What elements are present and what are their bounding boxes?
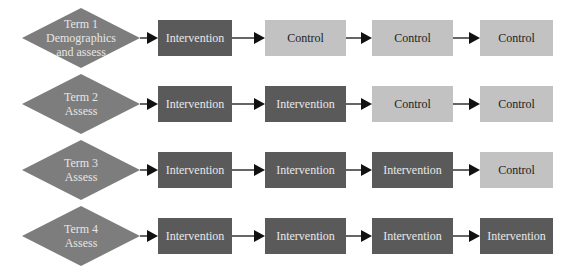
term-label-line2: Assess [65,236,98,250]
term-row-3: Term 3AssessInterventionInterventionInte… [0,140,571,200]
control-box: Control [480,86,553,122]
arrow-right-icon [453,31,480,45]
term-diamond: Term 3Assess [22,140,140,200]
term-diamond: Term 1Demographicsand assess [22,8,140,68]
term-label-line2: Demographics [46,31,116,45]
intervention-box: Intervention [158,218,232,254]
arrow-right-icon [346,229,372,243]
term-label-line2: Assess [65,104,98,118]
arrow-right-icon [140,163,158,177]
term-label-line1: Term 4 [64,222,98,236]
term-diamond: Term 2Assess [22,74,140,134]
term-label-line1: Term 2 [64,90,98,104]
term-row-1: Term 1Demographicsand assessIntervention… [0,8,571,68]
arrow-right-icon [232,97,265,111]
term-diamond: Term 4Assess [22,206,140,266]
arrow-right-icon [453,229,480,243]
term-row-2: Term 2AssessInterventionInterventionCont… [0,74,571,134]
intervention-box: Intervention [480,218,553,254]
term-label-line1: Term 3 [64,156,98,170]
intervention-box: Intervention [158,152,232,188]
term-label: Term 1Demographicsand assess [22,8,140,68]
term-label-line2: Assess [65,170,98,184]
arrow-right-icon [232,229,265,243]
term-row-4: Term 4AssessInterventionInterventionInte… [0,206,571,266]
intervention-box: Intervention [158,86,232,122]
arrow-right-icon [346,97,372,111]
intervention-box: Intervention [265,152,346,188]
term-label: Term 2Assess [22,74,140,134]
intervention-box: Intervention [158,20,232,56]
term-label-line3: and assess [56,45,106,59]
arrow-right-icon [453,97,480,111]
intervention-box: Intervention [372,218,453,254]
intervention-box: Intervention [372,152,453,188]
intervention-box: Intervention [265,218,346,254]
arrow-right-icon [232,163,265,177]
intervention-box: Intervention [265,86,346,122]
control-box: Control [372,86,453,122]
arrow-right-icon [346,163,372,177]
term-label: Term 3Assess [22,140,140,200]
term-label-line1: Term 1 [64,17,98,31]
term-label: Term 4Assess [22,206,140,266]
control-box: Control [480,20,553,56]
control-box: Control [372,20,453,56]
arrow-right-icon [140,31,158,45]
control-box: Control [265,20,346,56]
arrow-right-icon [232,31,265,45]
control-box: Control [480,152,553,188]
arrow-right-icon [453,163,480,177]
arrow-right-icon [140,229,158,243]
arrow-right-icon [346,31,372,45]
arrow-right-icon [140,97,158,111]
